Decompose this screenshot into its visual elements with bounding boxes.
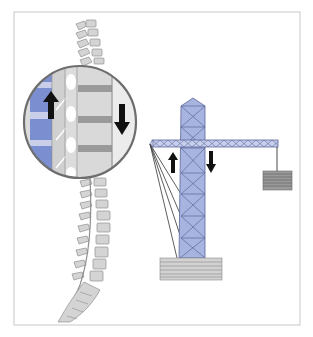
disc — [78, 116, 112, 123]
diagram-canvas — [0, 0, 313, 337]
crane-tower — [179, 98, 205, 258]
disc — [78, 85, 112, 92]
hanging-weight — [263, 171, 292, 190]
crane-base — [160, 258, 222, 280]
disc — [78, 145, 112, 152]
spine-crane-analogy-diagram — [0, 0, 313, 337]
crane-jib — [152, 140, 278, 147]
